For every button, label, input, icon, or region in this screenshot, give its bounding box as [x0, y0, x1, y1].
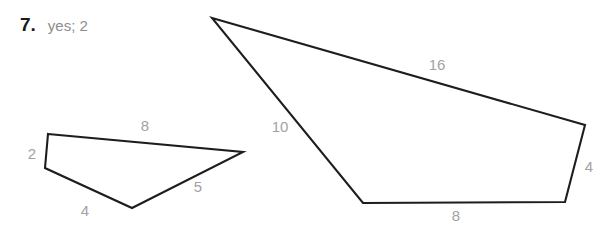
edge-label-8-bottom-right: 8	[452, 207, 460, 224]
small-quadrilateral-shape	[45, 134, 243, 208]
edge-label-5-right-left: 5	[194, 178, 202, 195]
edge-label-10-left-right: 10	[272, 118, 289, 135]
large-quadrilateral-shape	[212, 18, 585, 203]
edge-label-4-right-right: 4	[585, 158, 593, 175]
figure-page: 7. yes; 2 8542 164810	[0, 0, 608, 232]
large-quadrilateral-group: 164810	[212, 18, 593, 224]
edge-label-8-top-left: 8	[141, 117, 149, 134]
small-quadrilateral-labels: 8542	[28, 117, 202, 219]
edge-label-16-top-right: 16	[429, 56, 446, 73]
small-quadrilateral-group: 8542	[28, 117, 243, 219]
edge-label-2-left-left: 2	[28, 145, 36, 162]
edge-label-4-bottom-left: 4	[81, 202, 89, 219]
geometry-figures: 8542 164810	[0, 0, 608, 232]
